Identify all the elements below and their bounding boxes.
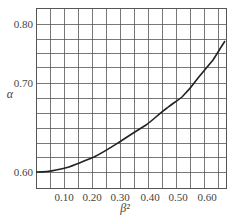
- y-tick-labels: 0.600.700.80: [14, 18, 34, 178]
- x-axis-label: β²: [119, 201, 130, 215]
- x-tick-labels: 0.100.200.300.400.500.60: [54, 191, 217, 203]
- x-tick-label: 0.50: [168, 191, 188, 203]
- x-tick-label: 0.10: [54, 191, 74, 203]
- x-tick-label: 0.20: [82, 191, 102, 203]
- y-tick-label: 0.60: [14, 166, 34, 178]
- grid: [36, 8, 226, 188]
- chart: 0.100.200.300.400.500.60 0.600.700.80 β²…: [0, 0, 235, 219]
- y-tick-label: 0.70: [14, 77, 34, 89]
- x-tick-label: 0.40: [140, 191, 160, 203]
- y-axis-label: α: [7, 87, 14, 101]
- x-tick-label: 0.60: [197, 191, 217, 203]
- y-tick-label: 0.80: [14, 18, 34, 30]
